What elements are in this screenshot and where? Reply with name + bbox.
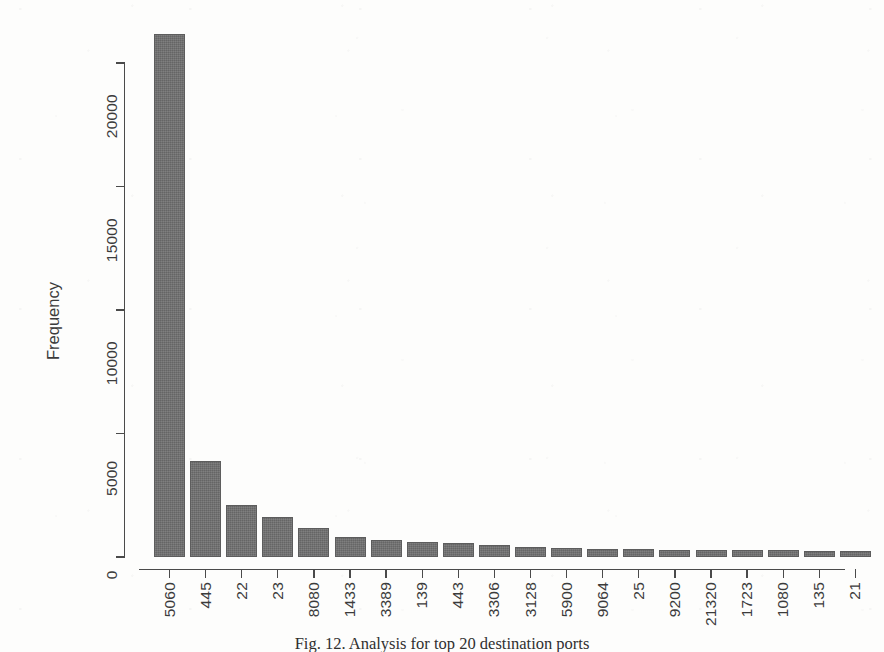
x-axis-tick (169, 569, 170, 578)
y-axis-tick (116, 433, 125, 434)
x-axis-tick-label: 9064 (594, 582, 612, 617)
x-axis-tick (638, 569, 639, 578)
x-axis-tick-label: 3128 (522, 582, 540, 617)
x-axis-tick (349, 569, 350, 578)
y-axis-tick-label: 5000 (103, 460, 121, 495)
y-axis-tick (116, 556, 125, 557)
x-axis-tick-label: 5900 (558, 582, 576, 617)
x-axis-tick-label: 139 (413, 582, 431, 608)
x-axis-tick (241, 569, 242, 578)
x-axis-tick-label: 445 (197, 582, 215, 608)
bar (768, 550, 799, 557)
x-axis-tick-label: 135 (810, 582, 828, 608)
bar (190, 461, 221, 557)
bar (732, 550, 763, 557)
y-axis-tick (116, 62, 125, 63)
x-axis-tick (385, 569, 386, 578)
bar (696, 550, 727, 557)
figure-container: Frequency 05000100001500020000 506044522… (0, 0, 884, 652)
figure-caption: Fig. 12. Analysis for top 20 destination… (0, 634, 884, 652)
x-axis-tick (674, 569, 675, 578)
y-axis-tick-label: 15000 (103, 218, 121, 262)
x-axis-tick (530, 569, 531, 578)
x-axis-tick (422, 569, 423, 578)
x-axis-tick (494, 569, 495, 578)
y-axis-tick (116, 186, 125, 187)
bar (298, 528, 329, 557)
y-axis-tick-label: 0 (103, 570, 121, 579)
bar (623, 549, 654, 557)
bar (551, 548, 582, 557)
x-axis-tick (566, 569, 567, 578)
bar (335, 537, 366, 557)
y-axis-tick-label: 20000 (103, 94, 121, 138)
x-axis-tick (855, 569, 856, 578)
y-axis-tick-label: 10000 (103, 341, 121, 385)
bar (154, 34, 185, 557)
bar (515, 547, 546, 557)
bar (262, 517, 293, 557)
x-axis-tick-label: 21 (846, 582, 864, 600)
x-axis-tick (277, 569, 278, 578)
x-axis-tick-label: 3306 (485, 582, 503, 617)
bar (479, 545, 510, 557)
x-axis-tick-label: 3389 (377, 582, 395, 617)
y-axis-title: Frequency (44, 282, 63, 360)
x-axis-tick-label: 22 (233, 582, 251, 600)
x-axis-tick (710, 569, 711, 578)
x-axis-tick-label: 1433 (341, 582, 359, 617)
x-axis-tick-label: 1723 (738, 582, 756, 617)
bar-chart-plot: Frequency 05000100001500020000 506044522… (0, 0, 884, 652)
x-axis-tick (819, 569, 820, 578)
x-axis-tick-label: 23 (269, 582, 287, 600)
x-axis-tick-label: 25 (630, 582, 648, 600)
bar (371, 540, 402, 557)
x-axis-tick (313, 569, 314, 578)
bar (659, 550, 690, 557)
x-axis-tick (783, 569, 784, 578)
bar (804, 551, 835, 557)
x-axis-tick-label: 9200 (666, 582, 684, 617)
x-axis-tick-label: 5060 (161, 582, 179, 617)
bar (407, 542, 438, 557)
x-axis-tick-label: 21320 (702, 582, 720, 626)
x-axis-tick-label: 443 (449, 582, 467, 608)
x-axis-line (139, 569, 845, 570)
bar (226, 505, 257, 557)
bar (587, 549, 618, 557)
x-axis-tick-label: 1080 (774, 582, 792, 617)
bar (840, 551, 871, 557)
y-axis-tick (116, 309, 125, 310)
x-axis-tick (458, 569, 459, 578)
bar (443, 543, 474, 557)
x-axis-tick (602, 569, 603, 578)
x-axis-tick (746, 569, 747, 578)
x-axis-tick-label: 8080 (305, 582, 323, 617)
x-axis-tick (205, 569, 206, 578)
